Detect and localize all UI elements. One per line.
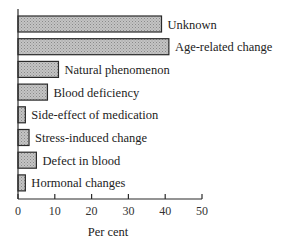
category-label: Age-related change [175,40,273,54]
bar-chart: UnknownAge-related changeNatural phenome… [0,0,287,249]
category-label: Unknown [168,18,218,32]
category-label: Hormonal changes [31,176,125,190]
x-axis-title: Per cent [88,225,129,239]
category-label: Blood deficiency [53,86,139,100]
category-label: Side-effect of medication [31,108,159,122]
x-tick-label: 50 [196,204,208,218]
bar-side-effect-of-medication [18,107,25,123]
category-label: Defect in blood [42,154,121,168]
category-label: Natural phenomenon [64,63,170,77]
x-tick-label: 10 [49,204,61,218]
bar-age-related-change [18,39,169,55]
x-tick-label: 20 [86,204,98,218]
x-tick-label: 30 [122,204,134,218]
category-label: Stress-induced change [35,131,148,145]
bar-defect-in-blood [18,152,36,168]
bar-natural-phenomenon [18,61,58,77]
bar-stress-induced-change [18,130,29,146]
x-ticks-group: 01020304050 [15,194,208,218]
x-tick-label: 0 [15,204,21,218]
bar-hormonal-changes [18,175,25,191]
x-tick-label: 40 [159,204,171,218]
bar-unknown [18,16,162,32]
bar-blood-deficiency [18,84,47,100]
